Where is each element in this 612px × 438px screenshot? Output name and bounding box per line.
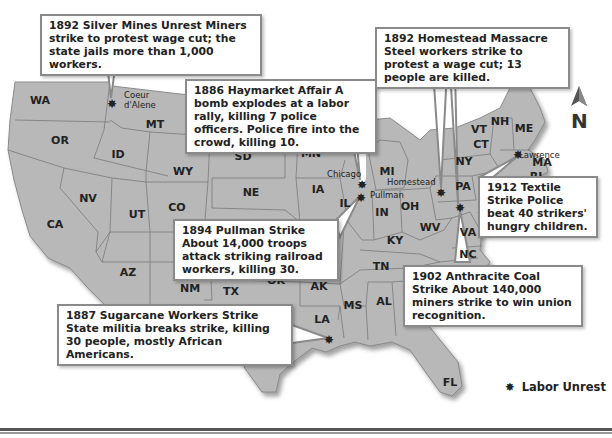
callout-haymarket: 1886 Haymarket Affair A bomb explodes at… [185, 79, 377, 154]
state-label-or: OR [51, 134, 69, 147]
state-label-wy: WY [173, 165, 194, 178]
state-label-co: CO [168, 201, 185, 214]
callout-sugarcane: 1887 Sugarcane Workers Strike State mili… [57, 304, 293, 366]
labor-unrest-star-icon: ✸ [505, 380, 515, 394]
state-label-me: ME [515, 122, 533, 135]
state-label-wa: WA [30, 94, 51, 107]
bottom-rule [0, 428, 612, 431]
map-legend: ✸Labor Unrest [505, 380, 606, 394]
state-label-la: LA [314, 313, 330, 326]
city-label: Chicago [327, 169, 361, 179]
callout-homestead: 1892 Homestead Massacre Steel workers st… [375, 27, 570, 89]
state-label-ut: UT [129, 208, 146, 221]
state-label-al: AL [376, 295, 392, 308]
labor-unrest-star-icon: ✸ [107, 97, 117, 111]
north-arrow-icon [571, 86, 587, 108]
state-label-ms: MS [344, 299, 363, 312]
state-label-ca: CA [47, 218, 64, 231]
city-label: Lawrence [519, 150, 560, 160]
north-label: N [571, 112, 588, 130]
state-label-vt: VT [471, 123, 488, 136]
callout-pullman: 1894 Pullman Strike About 14,000 troops … [173, 219, 339, 281]
state-label-nm: NM [180, 282, 200, 295]
callout-silver-mines: 1892 Silver Mines Unrest Miners strike t… [40, 14, 262, 76]
city-label: Homestead [387, 177, 436, 187]
state-label-ak: AK [310, 280, 328, 293]
labor-unrest-star-icon: ✸ [356, 191, 366, 205]
legend-label: Labor Unrest [522, 380, 606, 394]
state-label-ny: NY [455, 155, 473, 168]
state-label-ct: CT [473, 138, 489, 151]
state-label-ia: IA [312, 183, 325, 196]
city-label: Pullman [370, 190, 404, 200]
callout-anthracite: 1902 Anthracite Coal Strike About 140,00… [403, 265, 583, 327]
labor-unrest-star-icon: ✸ [436, 186, 446, 200]
compass-rose: N [571, 86, 588, 130]
state-label-nc: NC [459, 248, 476, 261]
state-label-mt: MT [146, 118, 165, 131]
state-label-il: IL [339, 197, 350, 210]
state-label-nv: NV [79, 192, 97, 205]
labor-unrest-star-icon: ✸ [357, 178, 367, 192]
state-label-in: IN [375, 206, 388, 219]
state-label-id: ID [111, 148, 124, 161]
city-label: Coeur [124, 90, 150, 100]
state-label-tx: TX [223, 285, 240, 298]
state-label-oh: OH [401, 200, 420, 213]
city-label: d'Alene [124, 100, 156, 110]
state-label-tn: TN [373, 260, 390, 273]
labor-unrest-star-icon: ✸ [455, 201, 465, 215]
state-label-va: VA [460, 226, 477, 239]
state-label-wv: WV [420, 221, 441, 234]
state-label-fl: FL [443, 376, 458, 389]
callout-textile: 1912 Textile Strike Police beat 40 strik… [478, 176, 598, 238]
state-label-ne: NE [243, 186, 260, 199]
labor-unrest-star-icon: ✸ [324, 333, 334, 347]
state-label-ky: KY [387, 234, 405, 247]
bottom-rule-secondary [0, 432, 612, 434]
state-label-pa: PA [455, 180, 471, 193]
state-label-nh: NH [491, 115, 509, 128]
state-label-az: AZ [120, 266, 137, 279]
